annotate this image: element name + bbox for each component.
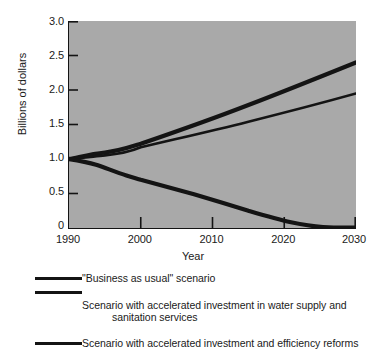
y-tick-label-1-5: 1.5 <box>30 118 64 129</box>
x-tick-label-2030: 2030 <box>324 233 384 245</box>
y-tick-label-0-5: 0.5 <box>30 186 64 197</box>
y-tick-label-1-0: 1.0 <box>30 152 64 163</box>
x-tick-label-2000: 2000 <box>110 233 170 245</box>
x-tick-label-2020: 2020 <box>253 233 313 245</box>
legend-line-swatch-icon <box>35 277 82 280</box>
series-line-business-as-usual <box>69 62 356 159</box>
chart-legend: "Business as usual" scenario Scenario wi… <box>0 272 386 351</box>
series-line-water-supply-sanitation <box>69 94 356 160</box>
legend-label-business-as-usual: "Business as usual" scenario <box>82 272 215 285</box>
y-tick-label-0: 0 <box>30 220 64 231</box>
y-axis-title: Billions of dollars <box>16 24 28 164</box>
y-tick-label-2-0: 2.0 <box>30 84 64 95</box>
y-axis-ticks <box>69 22 78 194</box>
legend-swatch-cell <box>0 286 82 299</box>
y-tick-label-3-0: 3.0 <box>30 16 64 27</box>
legend-swatch-cell <box>0 272 82 285</box>
legend-item-water-supply-sanitation: Scenario with accelerated investment in … <box>0 286 386 336</box>
legend-label-water-supply-sanitation: Scenario with accelerated investment in … <box>82 286 347 336</box>
legend-label-efficiency-reforms: Scenario with accelerated investment and… <box>82 337 358 350</box>
plot-area <box>68 21 356 229</box>
legend-swatch-cell <box>0 337 82 350</box>
legend-label-line-1: Scenario with accelerated investment in … <box>82 299 347 311</box>
x-tick-label-2010: 2010 <box>182 233 242 245</box>
legend-label-line-2: sanitation services <box>82 311 347 324</box>
x-axis-title: Year <box>0 250 386 262</box>
plot-canvas <box>69 21 356 228</box>
y-tick-label-2-5: 2.5 <box>30 50 64 61</box>
x-tick-label-1990: 1990 <box>38 233 98 245</box>
legend-line-swatch-icon <box>35 342 82 345</box>
legend-item-business-as-usual: "Business as usual" scenario <box>0 272 386 285</box>
legend-item-efficiency-reforms: Scenario with accelerated investment and… <box>0 337 386 350</box>
legend-line-swatch-icon <box>35 291 82 294</box>
